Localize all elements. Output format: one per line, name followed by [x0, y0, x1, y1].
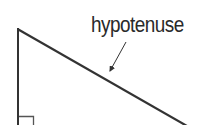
hypotenuse-line: [18, 29, 188, 125]
right-triangle-diagram: hypotenuse: [0, 0, 210, 125]
arrow-icon: [110, 42, 126, 71]
right-angle-marker: [19, 117, 34, 126]
hypotenuse-label: hypotenuse: [91, 12, 184, 38]
